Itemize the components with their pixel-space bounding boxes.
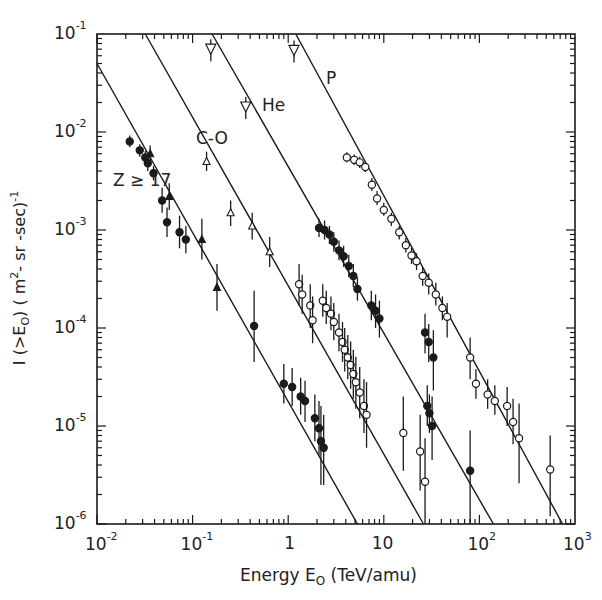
data-point xyxy=(335,329,342,336)
data-point xyxy=(425,279,432,286)
y-axis-label-unit: - sr -sec) xyxy=(10,202,29,272)
x-tick-label: 103 xyxy=(563,533,592,554)
data-point xyxy=(363,411,370,418)
data-point xyxy=(419,272,426,279)
data-point xyxy=(428,422,435,429)
y-axis-label-sub: O xyxy=(19,317,32,326)
data-point xyxy=(472,380,479,387)
data-point xyxy=(330,318,337,325)
data-point xyxy=(354,285,361,292)
data-point xyxy=(163,219,170,226)
data-point xyxy=(380,206,387,213)
data-point xyxy=(372,307,379,314)
data-point xyxy=(330,238,337,245)
y-axis-label: I (>EO) ( m2- sr -sec)-1 xyxy=(8,191,32,365)
data-point xyxy=(425,338,432,345)
y-tick-label: 10-6 xyxy=(54,512,87,533)
data-point xyxy=(430,354,437,361)
data-point xyxy=(198,235,205,242)
data-point xyxy=(299,291,306,298)
data-point xyxy=(176,229,183,236)
y-axis-label-text: I (>E xyxy=(10,326,29,366)
data-point xyxy=(280,380,287,387)
data-point xyxy=(484,391,491,398)
cosmic-ray-flux-chart xyxy=(0,0,602,600)
data-point xyxy=(421,478,428,485)
series-p xyxy=(289,40,554,516)
series-label: Z ≥ 17 xyxy=(113,170,171,190)
y-tick-label: 10-5 xyxy=(54,414,87,435)
data-point xyxy=(182,236,189,243)
data-point xyxy=(326,231,333,238)
data-point xyxy=(402,242,409,249)
data-point xyxy=(301,397,308,404)
data-point xyxy=(491,397,498,404)
data-point xyxy=(311,415,318,422)
y-tick-label: 10-3 xyxy=(54,218,87,239)
data-point xyxy=(350,272,357,279)
data-point xyxy=(159,197,166,204)
x-axis-label-sub: O xyxy=(316,574,325,588)
data-point xyxy=(352,379,359,386)
data-point xyxy=(417,448,424,455)
data-point xyxy=(547,466,554,473)
fit-lines xyxy=(97,34,562,524)
data-point xyxy=(251,322,258,329)
data-point xyxy=(432,291,439,298)
data-point xyxy=(439,304,446,311)
data-point xyxy=(413,258,420,265)
data-point xyxy=(227,209,234,216)
series-label: He xyxy=(262,95,285,115)
data-point xyxy=(203,158,210,165)
upper-limit-marker xyxy=(289,45,299,55)
data-point xyxy=(319,297,326,304)
data-point xyxy=(467,467,474,474)
x-tick-label: 102 xyxy=(467,533,496,554)
y-tick-label: 10-4 xyxy=(54,316,87,337)
series-label: C-O xyxy=(196,128,228,148)
data-point xyxy=(444,313,451,320)
data-point xyxy=(214,283,221,290)
y-axis-label-exp: -1 xyxy=(8,191,21,202)
x-tick-label: 1 xyxy=(284,533,295,553)
data-point xyxy=(289,383,296,390)
y-axis-label-mid: ) ( m xyxy=(10,279,29,317)
x-axis-label: Energy EO (TeV/amu) xyxy=(240,565,417,588)
data-point xyxy=(126,138,133,145)
data-point xyxy=(376,315,383,322)
upper-limit-marker xyxy=(241,102,251,112)
data-point xyxy=(509,418,516,425)
y-tick-label: 10-1 xyxy=(54,22,87,43)
data-point xyxy=(368,181,375,188)
data-point xyxy=(309,317,316,324)
series-label: P xyxy=(326,68,336,88)
y-axis-label-sup: 2 xyxy=(8,272,21,279)
data-point xyxy=(136,147,143,154)
data-point xyxy=(343,154,350,161)
upper-limit-marker xyxy=(206,44,216,54)
data-point xyxy=(345,262,352,269)
x-tick-label: 10-2 xyxy=(85,533,118,554)
x-axis-label-text: Energy E xyxy=(240,565,316,585)
y-tick-label: 10-2 xyxy=(54,120,87,141)
data-point xyxy=(467,354,474,361)
data-point xyxy=(421,329,428,336)
data-point xyxy=(373,195,380,202)
data-point xyxy=(320,444,327,451)
data-point xyxy=(340,253,347,260)
data-point xyxy=(400,429,407,436)
x-tick-label: 10-1 xyxy=(181,533,214,554)
data-point xyxy=(396,229,403,236)
x-axis-label-unit: (TeV/amu) xyxy=(325,565,417,585)
data-point xyxy=(388,215,395,222)
data-point xyxy=(515,435,522,442)
data-point xyxy=(362,163,369,170)
data-point xyxy=(144,160,151,167)
data-point xyxy=(356,389,363,396)
x-tick-label: 10 xyxy=(372,533,394,553)
data-point xyxy=(504,402,511,409)
